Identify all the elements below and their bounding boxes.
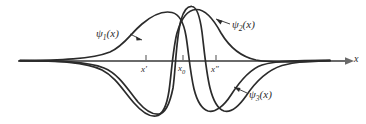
x-axis-label: x bbox=[354, 54, 358, 64]
wavefunction-figure: ψ1(x) ψ2(x) ψ3(x) x′ x0 x″ x bbox=[0, 0, 366, 124]
tick-label-x0: x0 bbox=[178, 64, 185, 75]
leader-arrow-psi1 bbox=[136, 37, 142, 41]
curve-label-psi1: ψ1(x) bbox=[96, 28, 119, 42]
tick-label-xprime: x′ bbox=[141, 65, 147, 74]
tick-label-xdoubleprime: x″ bbox=[211, 65, 219, 74]
curve-label-psi3: ψ3(x) bbox=[249, 89, 272, 103]
x-axis-arrowhead bbox=[345, 57, 354, 65]
curve-label-psi2: ψ2(x) bbox=[232, 19, 255, 33]
figure-canvas bbox=[0, 0, 366, 124]
